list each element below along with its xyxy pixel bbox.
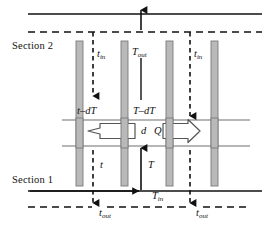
plate-bar-4	[211, 41, 218, 186]
T-minus-dT-term: dT	[144, 105, 155, 116]
section-2-label: Section 2	[12, 41, 53, 52]
d-label: d	[141, 126, 146, 137]
plate-bar-3	[166, 41, 173, 186]
section-1-label: Section 1	[12, 175, 53, 186]
plate-bar-4-overlay	[211, 118, 218, 148]
plate-bar-3-overlay	[166, 118, 173, 148]
t-minus-dT-label: t–dT	[77, 101, 96, 117]
t-in-right-sub: in	[197, 53, 202, 61]
bottom-boundary-group	[28, 191, 262, 207]
t-minus-dT-term: dT	[85, 105, 96, 116]
t-in-left-sub: in	[100, 53, 105, 61]
Q-label: Q	[154, 126, 162, 137]
t-out-right-label: tout	[196, 203, 208, 219]
T-out-base: T	[132, 46, 138, 57]
T-label: T	[148, 160, 154, 171]
top-boundary-group	[28, 14, 262, 32]
t-out-right-sub: out	[199, 212, 208, 220]
plate-bar-2-overlay	[121, 118, 128, 148]
T-out-label: Tout	[132, 42, 147, 58]
t-out-left-sub: out	[102, 212, 111, 220]
t-out-left-label: tout	[99, 203, 111, 219]
T-in-base: T	[152, 190, 158, 201]
t-in-left-label: tin	[97, 44, 105, 60]
T-out-sub: out	[138, 51, 147, 59]
plate-bar-2	[121, 41, 128, 186]
plate-bar-1-overlay	[76, 118, 83, 148]
t-label: t	[100, 160, 103, 171]
figure-canvas: Section 2 Section 1 tin tin Tout t–dT T–…	[0, 0, 269, 228]
T-minus-dT-label: T–dT	[133, 101, 155, 117]
T-in-sub: in	[158, 195, 163, 203]
T-in-label: Tin	[152, 186, 163, 202]
t-in-right-label: tin	[194, 44, 202, 60]
